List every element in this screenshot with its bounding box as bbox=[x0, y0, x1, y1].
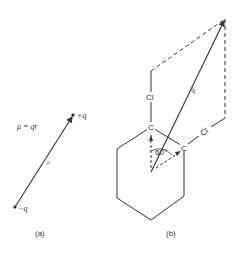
negative-charge-dot bbox=[13, 205, 16, 208]
dipole-diagram: μ = qr +q −q r (a) C C Cl Cl μ bbox=[0, 0, 239, 255]
caption-a: (a) bbox=[35, 229, 45, 238]
figure-a: μ = qr +q −q r (a) bbox=[13, 111, 86, 238]
positive-charge-label: +q bbox=[77, 111, 86, 120]
vector-r-label: r bbox=[47, 159, 50, 167]
angle-label: 60° bbox=[155, 148, 167, 157]
dipole-equation: μ = qr bbox=[16, 122, 38, 131]
carbon-right: C bbox=[181, 144, 187, 153]
carbon-top: C bbox=[148, 123, 154, 132]
chlorine-right: Cl bbox=[199, 126, 210, 138]
caption-b: (b) bbox=[166, 229, 176, 238]
chlorine-top: Cl bbox=[146, 93, 154, 102]
parallelogram-top-dashed bbox=[151, 19, 225, 71]
negative-charge-label: −q bbox=[18, 204, 27, 213]
positive-charge-dot bbox=[71, 113, 74, 116]
figure-b: C C Cl Cl μ 60° (b) bbox=[117, 19, 225, 238]
bond-c-cl-diagonal bbox=[188, 136, 199, 144]
